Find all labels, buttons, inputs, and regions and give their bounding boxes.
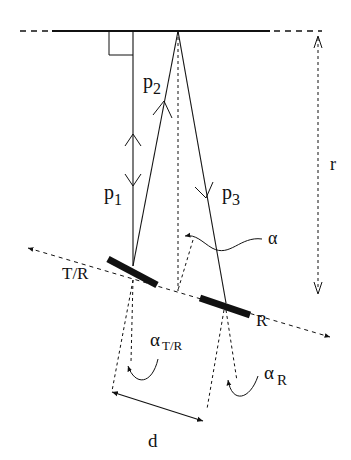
reflection-geometry-diagram: p2 p1 p3 r α T/R R αT/R αR d [0, 0, 351, 460]
distance-r-arrow [314, 36, 322, 294]
alpha-curve-arrow [185, 236, 262, 251]
receiver-antenna [200, 298, 250, 315]
label-d: d [148, 430, 158, 451]
label-p1: p1 [104, 181, 122, 208]
label-receiver: R [256, 311, 268, 330]
label-transceiver: T/R [62, 264, 89, 283]
path-p2 [133, 31, 178, 266]
antenna-baseline [28, 248, 330, 337]
path-p3 [178, 31, 226, 303]
distance-d-arrow [112, 392, 203, 421]
label-alpha-r: αR [264, 362, 287, 388]
alpha-r-dotted-lines [207, 310, 237, 409]
label-alpha: α [268, 228, 278, 248]
label-r: r [330, 154, 336, 174]
alpha-dotted-line [178, 240, 193, 290]
right-angle-marker [109, 31, 133, 55]
path-p1 [125, 31, 141, 266]
alpha-tr-curve-arrow [128, 359, 158, 380]
label-p3: p3 [222, 181, 240, 208]
label-p2: p2 [143, 70, 161, 97]
alpha-tr-dotted-lines [112, 280, 133, 391]
label-alpha-tr: αT/R [150, 329, 183, 353]
alpha-r-curve-arrow [228, 376, 258, 396]
